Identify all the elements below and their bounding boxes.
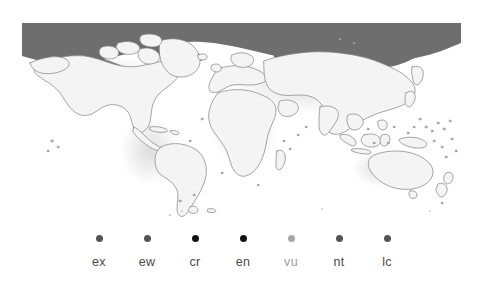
status-legend: ex ew cr en vu nt lc	[75, 228, 411, 278]
landmass-borneo	[361, 134, 381, 147]
legend-item-en[interactable]: en	[219, 228, 267, 269]
legend-item-ex[interactable]: ex	[75, 228, 123, 269]
island-dot	[441, 146, 443, 148]
legend-item-nt[interactable]: nt	[315, 228, 363, 269]
island-dot	[437, 122, 439, 124]
legend-item-vu[interactable]: vu	[267, 228, 315, 269]
island-dot	[179, 200, 181, 202]
island-dot	[305, 126, 307, 128]
island-dot	[289, 148, 291, 150]
landmass-falklands	[189, 206, 198, 213]
island-dot	[339, 38, 341, 40]
island-dot	[57, 146, 59, 148]
island-dot	[47, 150, 49, 152]
island-dot	[441, 202, 443, 204]
island-dot	[451, 138, 453, 140]
island-dot	[443, 128, 445, 130]
landmass-tasmania	[409, 191, 417, 199]
legend-dot-en	[240, 235, 247, 242]
figure-root: ex ew cr en vu nt lc	[0, 0, 483, 287]
island-dot	[449, 120, 451, 122]
island-dot	[413, 126, 415, 128]
legend-dot-vu	[288, 235, 295, 242]
island-dot	[407, 132, 409, 134]
island-dot	[387, 142, 389, 144]
legend-label-lc: lc	[382, 255, 392, 269]
world-map-panel	[22, 23, 461, 217]
legend-dot-ex	[96, 235, 103, 242]
island-dot	[193, 194, 195, 196]
legend-item-cr[interactable]: cr	[171, 228, 219, 269]
landmass-philippines	[378, 120, 387, 130]
island-dot	[353, 42, 355, 44]
landmass-arabia	[278, 100, 298, 116]
world-map-svg	[22, 23, 461, 217]
island-dot	[431, 130, 433, 132]
legend-label-vu: vu	[284, 255, 298, 269]
island-dot	[189, 140, 191, 142]
legend-label-en: en	[236, 255, 251, 269]
island-speck	[169, 214, 171, 216]
legend-item-ew[interactable]: ew	[123, 228, 171, 269]
landmass-indochina	[347, 114, 363, 130]
landmass-scandinavia	[231, 53, 254, 68]
landmass-british-isles	[211, 64, 221, 72]
island-dot	[221, 172, 223, 174]
island-dot	[419, 118, 421, 120]
legend-dot-lc	[384, 235, 391, 242]
island-dot	[455, 150, 457, 152]
island-dot	[425, 126, 427, 128]
island-dot	[201, 118, 203, 120]
legend-label-nt: nt	[333, 255, 344, 269]
island-dot	[297, 134, 299, 136]
island-dot	[445, 156, 447, 158]
landmass-iceland	[198, 54, 207, 60]
island-speck	[429, 210, 430, 211]
legend-label-ew: ew	[139, 255, 156, 269]
island-speck	[321, 208, 322, 209]
landmass-ellesmere	[140, 34, 162, 47]
legend-dot-ew	[144, 235, 151, 242]
legend-dot-nt	[336, 235, 343, 242]
legend-label-cr: cr	[189, 255, 200, 269]
island-dot	[373, 142, 375, 144]
legend-dot-cr	[192, 235, 199, 242]
island-speck	[181, 210, 182, 211]
island-dot	[51, 140, 53, 142]
island-dot	[257, 184, 259, 186]
island-dot	[283, 140, 285, 142]
legend-label-ex: ex	[92, 255, 106, 269]
landmass-victoria-island	[99, 46, 119, 59]
legend-item-lc[interactable]: lc	[363, 228, 411, 269]
island-dot	[393, 126, 395, 128]
landmass-south-georgia	[208, 209, 216, 213]
island-dot	[433, 140, 435, 142]
island-dot	[367, 128, 369, 130]
